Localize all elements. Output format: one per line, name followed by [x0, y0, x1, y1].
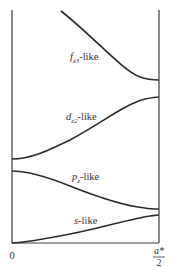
x-axis-end-label-denominator: 2 [157, 258, 162, 267]
band-label-f: fz3-like [70, 51, 99, 65]
x-axis-end-label-numerator: a* [154, 245, 164, 256]
band-label-s: s-like [74, 215, 98, 226]
band-curve-f [61, 11, 159, 80]
band-curve-d [12, 97, 159, 159]
band-structure-diagram: fz3-like dz2-like pz-like s-like 0 a* 2 [0, 0, 173, 267]
x-axis-start-label: 0 [9, 250, 14, 261]
band-label-d: dz2-like [66, 111, 97, 125]
band-label-p: pz-like [71, 171, 100, 185]
